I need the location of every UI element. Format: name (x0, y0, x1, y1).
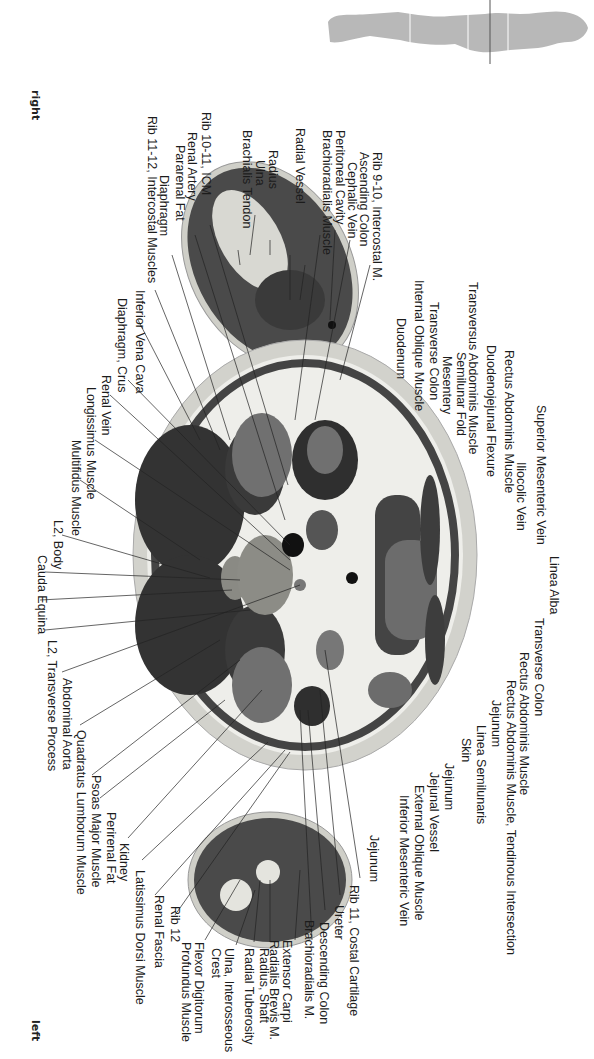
label-perirenal-fat: Perirenal Fat (104, 812, 117, 884)
label-kidney: Kidney (117, 843, 130, 881)
label-ulna: Ulna (253, 160, 266, 186)
label-renal-fascia: Renal Fascia (152, 895, 165, 968)
label-transverse-colon-1: Transverse Colon (427, 302, 440, 400)
label-linea-alba: Linea Alba (547, 556, 560, 614)
label-radius: Radius (266, 150, 279, 189)
label-external-oblique-muscle: External Oblique Muscle (412, 785, 425, 920)
label-brachioradialis-muscle: Brachioradialis Muscle (320, 130, 333, 255)
label-semilunar-fold: Semilunar Fold (454, 352, 467, 436)
label-l2-body: L2, Body (51, 520, 64, 569)
label-renal-vein: Renal Vein (99, 375, 112, 435)
label-inferior-mesenteric-vein: Inferior Mesenteric Vein (397, 795, 410, 926)
label-psoas-major-muscle: Psoas Major Muscle (89, 775, 102, 888)
label-pararenal-fat: Pararenal Fat (173, 145, 186, 221)
label-inferior-vena-cava: Inferior Vena Cava (133, 290, 146, 394)
label-brachioradialis-m: Brachioradialis M. (302, 920, 315, 1019)
label-jejunum-2: Jejunum (442, 763, 455, 810)
label-abdominal-aorta: Abdominal Aorta (60, 678, 73, 770)
label-rectus-abdominis-muscle-2: Rectus Abdominis Muscle (517, 652, 530, 795)
label-transverse-colon-2: Transverse Colon (532, 618, 545, 716)
label-rib-11-costal-cartilage: Rib 11, Costal Cartilage (347, 885, 360, 1016)
label-jejunum-1: Jejunum (489, 700, 502, 747)
cross-section-diagram: right left (0, 0, 594, 1059)
label-extensor-carpi-radialis-brevis: Extensor Carpi Radialis Brevis M. (267, 940, 293, 1050)
label-rib-9-10-intercostal: Rib 9-10, Intercostal M. (370, 152, 383, 281)
label-radial-vessel: Radial Vessel (293, 128, 306, 204)
label-rib-10-11-icm: Rib 10-11, ICM (199, 112, 212, 195)
label-latissimus-dorsi-muscle: Latissimus Dorsi Muscle (133, 870, 146, 1005)
label-l2-transverse-process: L2, Transverse Process (45, 640, 58, 771)
label-linea-semilunaris: Linea Semilunaris (474, 725, 487, 824)
label-rectus-tendinous-intersection: Rectus Abdominis Muscle, Tendinous Inter… (504, 680, 517, 955)
label-mesentery: Mesentery (440, 356, 453, 414)
label-multifidus-muscle: Multifidus Muscle (69, 440, 82, 536)
label-longissimus-muscle: Longissimus Muscle (84, 387, 97, 500)
label-ureter: Ureter (332, 905, 345, 940)
label-duodenojejunal-flexure: Duodenojejunal Flexure (484, 345, 497, 477)
label-iliocolic-vein: Iliocolic Vein (514, 462, 527, 531)
label-descending-colon: Descending Colon (317, 922, 330, 1024)
label-superior-mesenteric-vein: Superior Mesenteric Vein (534, 405, 547, 545)
label-jejunum-3: Jejunum (367, 835, 380, 882)
label-peritoneal-cavity: Peritoneal Cavity (333, 130, 346, 225)
label-brachialis-tendon: Brachialis Tendon (240, 130, 253, 228)
label-rib-12: Rib 12 (168, 906, 181, 942)
label-jejunal-vessel: Jejunal Vessel (427, 772, 440, 852)
label-diaphragm-crus: Diaphragm, Crus (115, 298, 128, 392)
label-rib-11-12-intercostal: Rib 11-12, Intercostal Muscles (145, 116, 158, 283)
label-flexor-digitorum-profundus: Flexor Digitorum Profundus Muscle (179, 942, 205, 1059)
label-skin: Skin (459, 738, 472, 762)
label-quadratus-lumborum-muscle: Quadratus Lumborum Muscle (74, 730, 87, 895)
label-ulna-interosseous-crest: Ulna, Interosseous Crest (209, 948, 235, 1058)
label-radial-tuberosity: Radial Tuberosity (242, 948, 255, 1045)
label-duodenum: Duodenum (394, 318, 407, 379)
label-internal-oblique-muscle: Internal Oblique Muscle (412, 280, 425, 411)
label-cauda-equina: Cauda Equina (35, 555, 48, 634)
